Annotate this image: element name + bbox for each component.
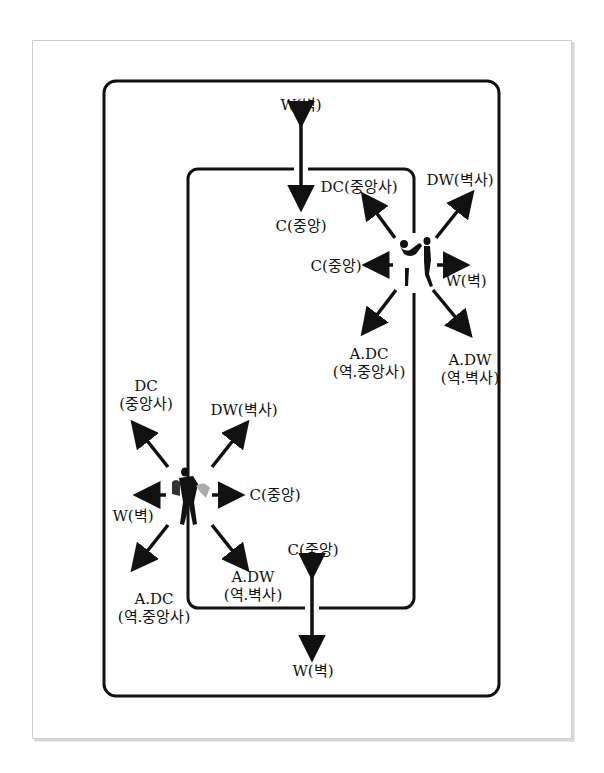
- label-bottom-center: C(중앙): [287, 541, 338, 559]
- label-ll-c: C(중앙): [249, 486, 300, 504]
- top-wall-center-arrow: [294, 118, 308, 202]
- label-ll-dc-line2: (중앙사): [119, 395, 173, 413]
- label-ur-c: C(중앙): [310, 257, 361, 275]
- label-ur-adc-line1: A.DC: [333, 345, 405, 363]
- label-ll-w: W(벽): [112, 507, 153, 525]
- label-top-center: C(중앙): [275, 217, 326, 235]
- label-ll-adc: A.DC (역.중앙사): [118, 590, 190, 626]
- label-ur-adc: A.DC (역.중앙사): [333, 345, 405, 381]
- label-ll-adc-line2: (역.중앙사): [118, 608, 190, 626]
- label-ll-adc-line1: A.DC: [118, 590, 190, 608]
- label-ll-adw-line2: (역.벽사): [224, 586, 282, 604]
- label-ur-adw-line1: A.DW: [441, 351, 499, 369]
- label-ur-adw-line2: (역.벽사): [441, 369, 499, 387]
- label-top-wall: W(벽): [280, 96, 321, 114]
- bottom-center-wall-arrow: [305, 570, 319, 652]
- label-ll-dc: DC (중앙사): [119, 377, 173, 413]
- label-ur-adc-line2: (역.중앙사): [333, 363, 405, 381]
- label-ur-w: W(벽): [445, 272, 486, 290]
- label-bottom-wall: W(벽): [292, 662, 333, 680]
- label-ll-dc-line1: DC: [119, 377, 173, 395]
- label-ll-dw: DW(벽사): [210, 401, 277, 419]
- label-ur-dw: DW(벽사): [426, 171, 493, 189]
- label-ll-adw: A.DW (역.벽사): [224, 568, 282, 604]
- couple-silhouette-icon: [172, 468, 210, 526]
- label-ll-adw-line1: A.DW: [224, 568, 282, 586]
- label-ur-dc: DC(중앙사): [320, 178, 397, 196]
- upper-right-direction-arrows: [367, 198, 468, 330]
- label-ur-adw: A.DW (역.벽사): [441, 351, 499, 387]
- dance-floor-diagram: [0, 0, 604, 773]
